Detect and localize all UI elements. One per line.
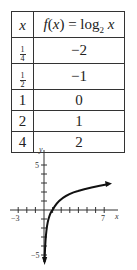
header-arg: x [108,16,115,32]
y-tick-label-5: 5 [35,161,39,170]
log-curve [45,184,109,262]
header-fx-label: f(x) = log2 x [44,16,115,32]
fraction: 12 [20,72,26,89]
header-x-label: x [19,17,26,33]
cell-x: 12 [12,64,34,90]
cell-x: 1 [12,90,34,111]
y-axis-label: y [38,145,43,154]
table-row: 1 0 [12,90,125,111]
cell-x: 14 [12,38,34,64]
cell-fx: 0 [34,90,125,111]
curve-arrow-right-icon [105,181,112,187]
y-tick-label-neg5: −5 [31,251,40,260]
table-row: 12 −1 [12,64,125,90]
fraction-denominator: 4 [21,55,25,63]
cell-x: 2 [12,111,34,132]
header-fx: f(x) = log2 x [34,12,125,38]
cell-fx: −1 [34,64,125,90]
x-tick-label-7: 7 [101,214,105,223]
fraction-numerator: 1 [21,46,25,54]
cell-fx: 1 [34,111,125,132]
header-log-base: 2 [100,25,105,35]
fraction: 14 [20,46,26,63]
fraction-numerator: 1 [21,72,25,80]
x-tick-label-neg3: −3 [11,214,20,223]
table-row: 2 1 [12,111,125,132]
header-eq-log: = log [64,16,99,32]
log-graph: y x −3 7 5 −5 [0,140,137,270]
value-table: x f(x) = log2 x 14 −2 12 −1 1 0 2 1 4 2 [11,11,125,153]
fraction-denominator: 2 [21,81,25,89]
header-x: x [12,12,34,38]
cell-fx: −2 [34,38,125,64]
x-axis-label: x [114,212,119,221]
curve-arrow-down-icon [42,257,47,265]
table-header-row: x f(x) = log2 x [12,12,125,38]
table-row: 14 −2 [12,38,125,64]
